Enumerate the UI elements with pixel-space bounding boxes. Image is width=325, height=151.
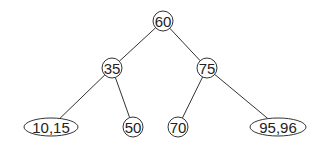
tree-nodes: 60357510,15507095,96 (24, 11, 306, 137)
tree-edge (119, 28, 155, 61)
tree-node: 10,15 (24, 118, 78, 136)
tree-node: 70 (168, 117, 188, 137)
tree-edge (170, 28, 200, 60)
tree-node: 95,96 (250, 118, 306, 136)
node-label: 50 (125, 119, 142, 136)
tree-edge (215, 74, 268, 118)
node-label: 75 (199, 60, 216, 77)
tree-node: 50 (123, 117, 143, 137)
tree-edge (182, 77, 202, 118)
node-label: 60 (155, 13, 172, 30)
node-label: 95,96 (259, 119, 297, 136)
tree-node: 60 (153, 11, 173, 31)
node-label: 35 (104, 60, 121, 77)
b-tree-diagram: 60357510,15507095,96 (0, 0, 325, 151)
tree-edge (60, 75, 105, 119)
tree-edges (60, 28, 268, 119)
tree-edge (115, 77, 129, 117)
node-label: 10,15 (32, 119, 70, 136)
tree-node: 35 (102, 58, 122, 78)
tree-node: 75 (197, 58, 217, 78)
node-label: 70 (170, 119, 187, 136)
